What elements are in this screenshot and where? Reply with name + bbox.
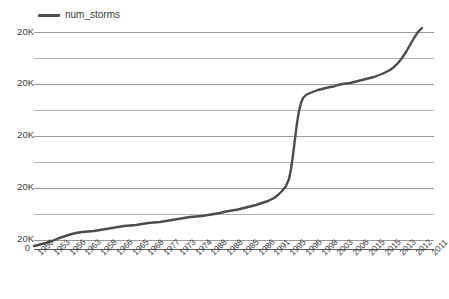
y-axis-tick-label-1: 20K bbox=[2, 27, 34, 37]
series-line-path bbox=[34, 28, 422, 246]
y-axis: 20K 20K 20K 20K 20K 0 bbox=[0, 27, 34, 259]
chart-legend: num_storms bbox=[38, 8, 120, 22]
plot-area bbox=[34, 27, 434, 249]
y-axis-tick-label-4: 20K bbox=[2, 182, 34, 192]
y-axis-tick-label-2: 20K bbox=[2, 78, 34, 88]
x-axis: 1950195319561963195819661965196819771973… bbox=[34, 251, 442, 299]
legend-item-label-num-storms: num_storms bbox=[65, 10, 120, 20]
line-swatch-icon bbox=[38, 14, 60, 17]
y-axis-zero-label: 0 bbox=[0, 243, 30, 253]
series-line-num-storms bbox=[34, 27, 434, 249]
y-axis-tick-label-3: 20K bbox=[2, 130, 34, 140]
